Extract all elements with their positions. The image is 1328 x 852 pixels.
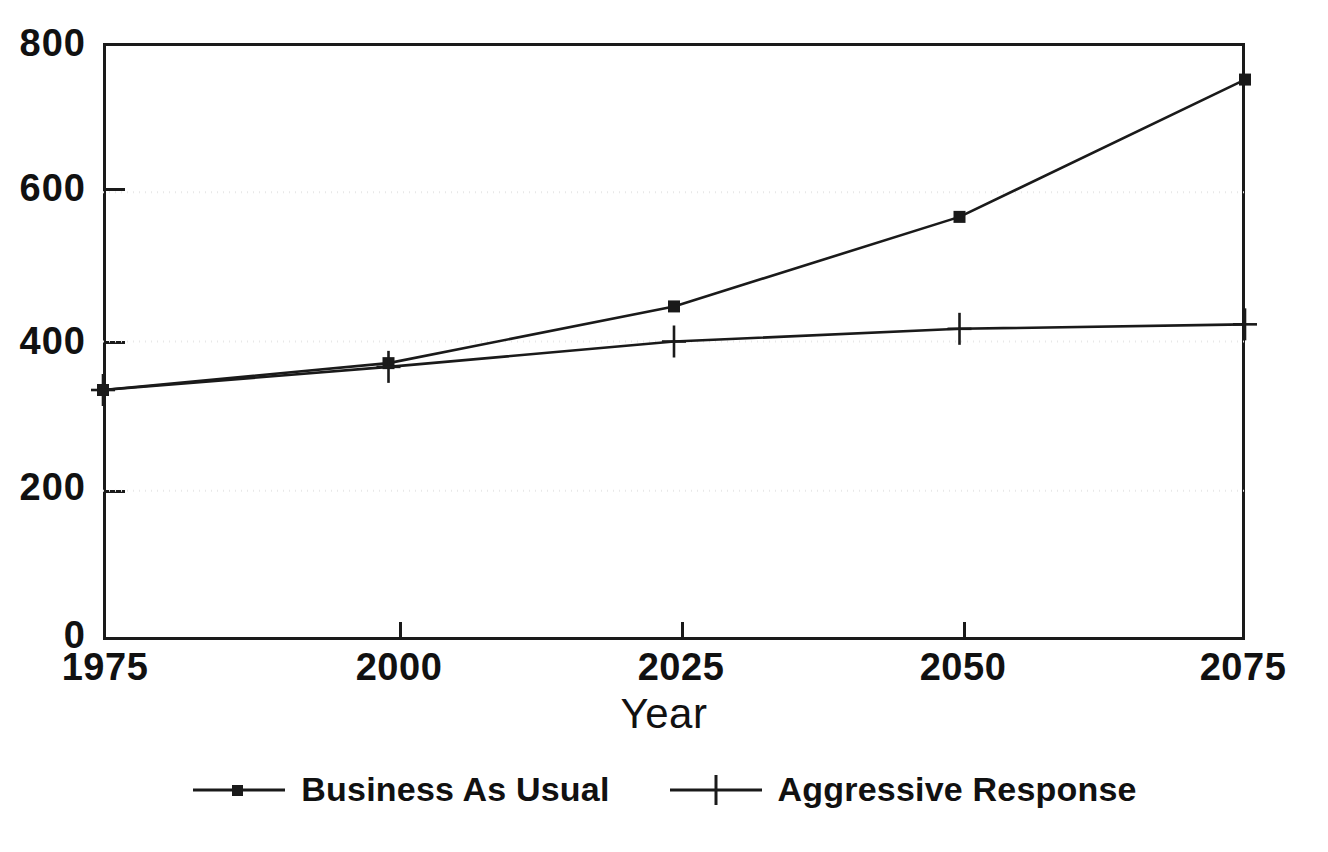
x-tick-label-2050: 2050 xyxy=(920,648,1007,686)
x-tick-label-2025: 2025 xyxy=(638,648,725,686)
legend-marker-plus-icon xyxy=(668,773,764,807)
y-tick-label-200: 200 xyxy=(20,468,86,506)
legend-entry-business-as-usual[interactable]: Business As Usual xyxy=(191,770,609,809)
chart-legend: Business As Usual Aggressive Response xyxy=(0,770,1328,809)
y-tick-label-600: 600 xyxy=(20,169,86,207)
legend-label-aggressive-response: Aggressive Response xyxy=(778,770,1137,809)
plot-area xyxy=(103,43,1245,640)
x-tick-label-1975: 1975 xyxy=(62,648,149,686)
x-tick-label-2000: 2000 xyxy=(356,648,443,686)
x-tick-mark-2050 xyxy=(963,622,966,640)
x-axis-title: Year xyxy=(0,690,1328,738)
legend-entry-aggressive-response[interactable]: Aggressive Response xyxy=(668,770,1137,809)
y-tick-label-800: 800 xyxy=(20,24,86,62)
data-point-marker xyxy=(668,300,680,312)
x-tick-mark-2000 xyxy=(399,622,402,640)
chart-figure: 800 600 400 200 0 1975 2000 2025 2050 20… xyxy=(0,0,1328,852)
x-tick-mark-2025 xyxy=(681,622,684,640)
y-tick-label-400: 400 xyxy=(20,322,86,360)
plot-canvas xyxy=(103,43,1245,640)
data-point-marker xyxy=(954,211,966,223)
data-point-marker xyxy=(1239,74,1251,86)
x-tick-label-2075: 2075 xyxy=(1200,648,1287,686)
legend-label-business-as-usual: Business As Usual xyxy=(301,770,609,809)
legend-marker-square-dot-icon xyxy=(191,773,287,807)
